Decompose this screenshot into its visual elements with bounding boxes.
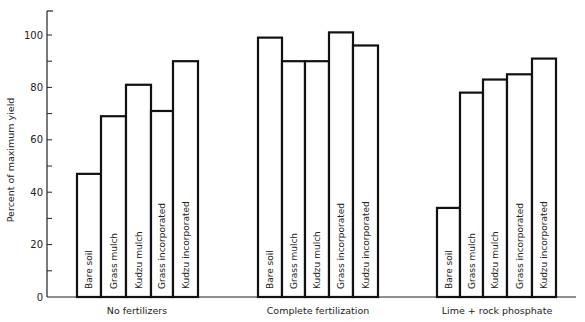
y-tick-label: 20 (30, 239, 43, 250)
bar-category-label: Grass incorporated (515, 203, 525, 289)
y-tick-label: 80 (30, 82, 43, 93)
bar-category-label: Bare soil (444, 250, 454, 289)
bar-category-label: Bare soil (84, 250, 94, 289)
bar-category-label: Kudzu incorporated (539, 201, 549, 289)
bar-category-label: Grass mulch (109, 233, 119, 289)
bar-group: Bare soilGrass mulchKudzu mulchGrass inc… (77, 61, 198, 316)
y-tick-label: 60 (30, 134, 43, 145)
y-tick-label: 0 (37, 292, 43, 303)
bar-category-label: Kudzu incorporated (181, 201, 191, 289)
y-axis-label: Percent of maximum yield (5, 98, 16, 223)
bar-group: Bare soilGrass mulchKudzu mulchGrass inc… (437, 59, 556, 316)
group-label: Complete fertilization (267, 305, 370, 316)
group-label: No fertilizers (107, 305, 167, 316)
bar-category-label: Kudzu mulch (490, 231, 500, 289)
bar-groups: Bare soilGrass mulchKudzu mulchGrass inc… (77, 32, 556, 316)
bar-category-label: Kudzu mulch (312, 231, 322, 289)
bar-category-label: Grass mulch (467, 233, 477, 289)
bar-group: Bare soilGrass mulchKudzu mulchGrass inc… (258, 32, 378, 316)
bar-category-label: Grass mulch (289, 233, 299, 289)
y-tick-label: 100 (24, 30, 43, 41)
bar-chart: 020406080100 Bare soilGrass mulchKudzu m… (0, 0, 585, 322)
bar-category-label: Bare soil (265, 250, 275, 289)
bar-category-label: Grass incorporated (336, 203, 346, 289)
bar-category-label: Grass incorporated (157, 203, 167, 289)
y-tick-label: 40 (30, 187, 43, 198)
bar-category-label: Kudzu mulch (134, 231, 144, 289)
group-label: Lime + rock phosphate (442, 305, 553, 316)
bar-category-label: Kudzu incorporated (361, 201, 371, 289)
